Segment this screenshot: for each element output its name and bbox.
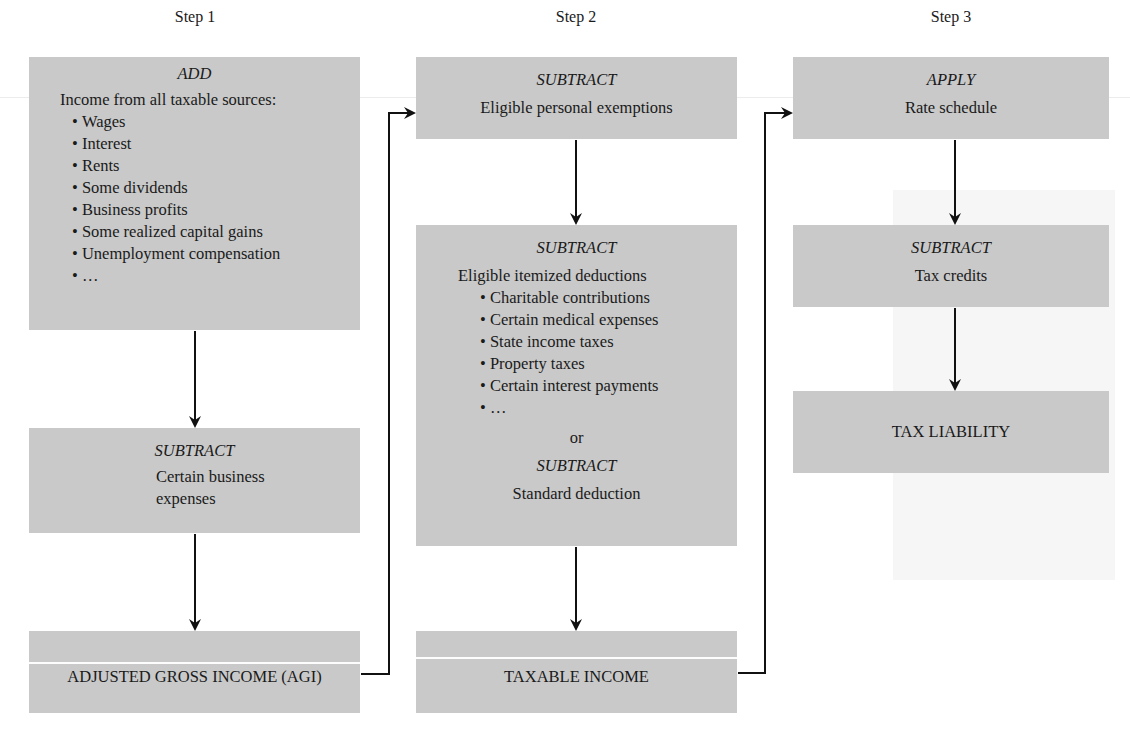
- arrow-agi-to-exemptions: [361, 113, 414, 674]
- arrow-taxable-to-rate: [738, 113, 791, 673]
- flow-arrows: [0, 0, 1130, 733]
